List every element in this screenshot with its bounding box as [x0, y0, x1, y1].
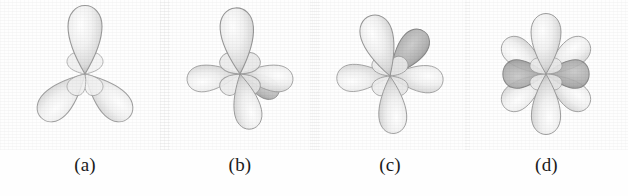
panel-label-b: (b) [160, 152, 320, 178]
panel-d: (d) [465, 0, 628, 196]
orbital-svg-c [310, 0, 470, 150]
panel-label-d: (d) [465, 152, 628, 178]
orbital-diagram-d [465, 0, 628, 150]
orbital-diagram-b [160, 0, 320, 150]
orbital-svg-a [0, 0, 170, 150]
orbital-svg-b [160, 0, 320, 150]
orbital-diagram-a [0, 0, 170, 150]
panel-b: (b) [160, 0, 320, 196]
panel-c: (c) [310, 0, 470, 196]
panel-a: (a) [0, 0, 170, 196]
panel-label-a: (a) [0, 152, 170, 178]
orbital-figure: (a) [0, 0, 628, 196]
orbital-diagram-c [310, 0, 470, 150]
orbital-svg-d [465, 0, 628, 150]
panel-label-c: (c) [310, 152, 470, 178]
